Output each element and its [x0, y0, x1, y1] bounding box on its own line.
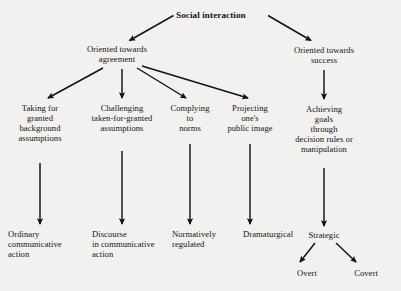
node-challenging-taken-for-granted-assumptions: Challenging taken-for-granted assumption…: [92, 103, 153, 133]
node-projecting-ones-public-image: Projecting one's public image: [227, 103, 272, 133]
arrow-strategic-to-covert: [336, 243, 356, 262]
node-oriented-towards-success: Oriented towards success: [294, 45, 354, 65]
node-dramaturgical: Dramaturgical: [243, 229, 293, 239]
node-strategic: Strategic: [309, 230, 340, 240]
node-normatively-regulated: Normatively regulated: [172, 229, 216, 249]
arrow-agreement-to-projecting: [142, 66, 248, 98]
node-complying-to-norms: Complying to norms: [170, 103, 209, 133]
arrow-agreement-to-taking: [48, 68, 103, 98]
node-ordinary-communicative-action: Ordinary communicative action: [8, 229, 62, 259]
node-overt: Overt: [297, 268, 317, 278]
arrow-strategic-to-overt: [300, 243, 315, 262]
node-oriented-towards-agreement: Oriented towards agreement: [87, 44, 147, 64]
node-social-interaction: Social interaction: [176, 10, 246, 20]
arrow-root-to-success: [268, 16, 311, 41]
node-achieving-goals-through-decision-rules-or-manipulation: Achieving goals through decision rules o…: [295, 104, 353, 154]
node-discourse-in-communicative-action: Discourse in communicative action: [92, 229, 155, 259]
node-covert: Covert: [354, 268, 378, 278]
node-taking-for-granted-background-assumptions: Taking for granted background assumption…: [18, 103, 61, 143]
arrow-root-to-agreement: [130, 16, 174, 41]
social-interaction-diagram: Social interaction Oriented towards agre…: [0, 0, 401, 291]
